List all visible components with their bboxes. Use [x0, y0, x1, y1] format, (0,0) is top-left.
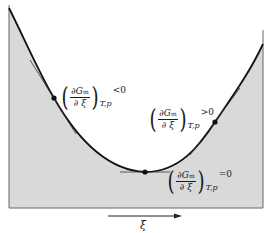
- annotation-left-derivative: ( ∂Gm ∂ ξ ) T,p <0: [60, 84, 126, 110]
- relation-equals-zero: =0: [219, 170, 232, 179]
- paren-open: (: [168, 168, 175, 194]
- numerator: ∂Gm: [158, 109, 178, 120]
- paren-close: ): [91, 84, 98, 110]
- paren-open: (: [150, 106, 157, 132]
- point-left: [51, 95, 56, 100]
- xi-arrow-head: [174, 214, 182, 219]
- subscript-tp: T,p: [100, 100, 112, 108]
- paren-close: ): [179, 106, 186, 132]
- fraction: ∂Gm ∂ ξ: [176, 171, 196, 192]
- denominator: ∂ ξ: [162, 120, 174, 130]
- relation-greater-than-zero: >0: [201, 108, 214, 117]
- paren-close: ): [197, 168, 204, 194]
- relation-less-than-zero: <0: [113, 86, 126, 95]
- annotation-minimum-derivative: ( ∂Gm ∂ ξ ) T,p =0: [166, 168, 232, 194]
- point-minimum: [142, 169, 147, 174]
- denominator: ∂ ξ: [180, 182, 192, 192]
- paren-open: (: [62, 84, 69, 110]
- numerator: ∂Gm: [70, 87, 90, 98]
- denominator: ∂ ξ: [74, 98, 86, 108]
- subscript-tp: T,p: [188, 122, 200, 130]
- xi-axis-label: ξ: [140, 220, 146, 231]
- gibbs-energy-diagram: [0, 0, 274, 233]
- fraction: ∂Gm ∂ ξ: [158, 109, 178, 130]
- numerator: ∂Gm: [176, 171, 196, 182]
- annotation-right-derivative: ( ∂Gm ∂ ξ ) T,p >0: [148, 106, 214, 132]
- fraction: ∂Gm ∂ ξ: [70, 87, 90, 108]
- subscript-tp: T,p: [206, 184, 218, 192]
